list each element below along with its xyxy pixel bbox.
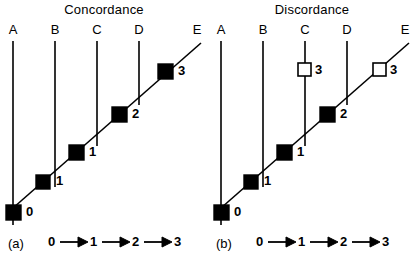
panel-concordance: Concordance A B C D E 0 1 1 2 3 (a) 0 1 … [0, 0, 208, 263]
node-marker-4 [158, 64, 173, 79]
node-marker-open-c [298, 63, 311, 76]
sequence-arrows [256, 234, 406, 254]
arrow-icon-1 [60, 237, 88, 247]
arrow-icon-3 [352, 237, 380, 247]
node-marker-3 [320, 107, 335, 122]
node-value-3: 2 [132, 106, 139, 121]
node-value-2: 1 [297, 144, 304, 159]
node-value-3: 2 [340, 106, 347, 121]
sequence-arrows [48, 234, 198, 254]
node-marker-open-e [373, 63, 386, 76]
sequence-concordance: 0 1 2 3 [48, 234, 198, 254]
node-marker-1 [244, 175, 258, 189]
arrow-icon-2 [310, 237, 338, 247]
node-marker-3 [112, 107, 127, 122]
panel-label-a: (a) [8, 236, 24, 251]
node-marker-2 [69, 145, 84, 160]
tree-diagram-concordance [0, 0, 208, 263]
arrow-icon-3 [144, 237, 172, 247]
arrow-icon-1 [268, 237, 296, 247]
sequence-discordance: 0 1 2 3 [256, 234, 406, 254]
node-marker-2 [277, 145, 292, 160]
node-value-2: 1 [89, 144, 96, 159]
panel-discordance: Discordance A B C D E 0 1 1 2 3 3 (b) 0 … [208, 0, 416, 263]
node-value-1: 1 [264, 173, 271, 188]
panel-label-b: (b) [216, 236, 232, 251]
node-marker-1 [36, 175, 50, 189]
node-value-0: 0 [26, 204, 33, 219]
arrow-icon-2 [102, 237, 130, 247]
node-value-1: 1 [56, 173, 63, 188]
node-marker-0 [214, 205, 229, 220]
node-marker-0 [6, 205, 21, 220]
node-value-open-e: 3 [390, 62, 397, 77]
node-value-open-c: 3 [315, 62, 322, 77]
node-value-0: 0 [234, 204, 241, 219]
node-value-4: 3 [178, 63, 185, 78]
tree-diagram-discordance [208, 0, 416, 263]
